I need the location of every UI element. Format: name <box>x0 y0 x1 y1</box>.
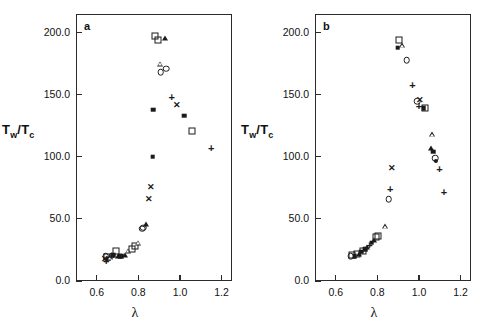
x-axis-label-b: λ <box>354 305 394 321</box>
triangle-inner <box>400 44 404 47</box>
xtick-label-b-2: 1.0 <box>404 286 434 298</box>
ytick-label-b-1: 50.0 <box>263 212 309 224</box>
data-point <box>382 224 388 229</box>
triangle-inner <box>430 134 434 137</box>
ytick-b-2 <box>315 156 321 157</box>
ytick-b-0 <box>315 280 321 281</box>
y-axis-label-b: Tw/Tc <box>241 122 274 140</box>
xtick-b-2 <box>418 275 419 281</box>
plot-frame-b <box>315 14 471 281</box>
panel-label-b: b <box>323 20 330 32</box>
ytick-label-b-4: 200.0 <box>263 26 309 38</box>
triangle-inner <box>383 226 387 229</box>
data-point <box>374 232 381 239</box>
ytick-label-b-0: 0.0 <box>263 274 309 286</box>
y-axis-denominator-sub: c <box>268 130 273 140</box>
xtick-b-0 <box>335 275 336 281</box>
data-point: + <box>436 164 442 175</box>
ytick-label-b-3: 150.0 <box>263 88 309 100</box>
xtick-label-b-0: 0.6 <box>321 286 351 298</box>
xtick-label-b-3: 1.2 <box>446 286 476 298</box>
data-point <box>422 105 429 112</box>
ytick-b-3 <box>315 94 321 95</box>
figure-container: a0.050.0100.0150.0200.00.60.81.01.2Tw/Tc… <box>0 0 490 336</box>
ytick-b-1 <box>315 218 321 219</box>
xtick-b-3 <box>460 275 461 281</box>
data-point <box>431 150 436 155</box>
data-point <box>386 196 393 203</box>
data-point <box>429 132 435 137</box>
data-point: ✕ <box>416 95 424 104</box>
xtick-label-b-1: 0.8 <box>362 286 392 298</box>
ytick-b-4 <box>315 32 321 33</box>
xtick-b-1 <box>377 275 378 281</box>
data-point <box>403 57 410 64</box>
ytick-label-b-2: 100.0 <box>263 150 309 162</box>
data-point: + <box>409 79 415 90</box>
data-point <box>399 43 405 48</box>
panel-b: b0.050.0100.0150.0200.00.60.81.01.2Tw/Tc… <box>0 0 490 336</box>
data-point: ✕ <box>388 163 396 172</box>
data-point: + <box>387 184 393 195</box>
y-axis-numerator: T <box>241 122 249 137</box>
data-point: + <box>441 186 447 197</box>
